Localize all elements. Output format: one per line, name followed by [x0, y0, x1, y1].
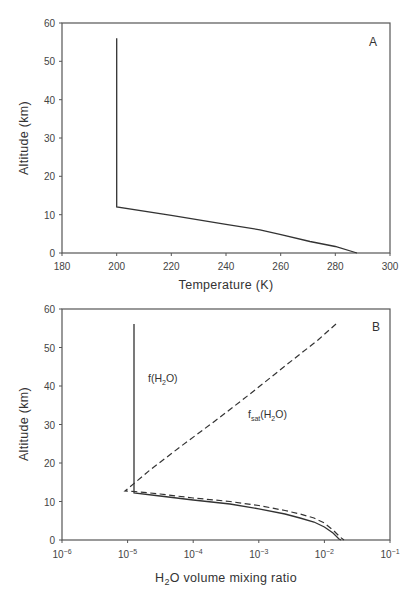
x-tick-label: 10−1 — [380, 548, 399, 560]
y-tick-label: 30 — [44, 133, 56, 144]
x-tick-label: 240 — [218, 261, 235, 272]
y-tick-label: 60 — [44, 18, 56, 29]
x-tick-label: 10−6 — [52, 548, 71, 560]
y-tick-label: 0 — [49, 535, 55, 546]
x-tick-label: 10−5 — [118, 548, 137, 560]
x-tick-label: 10−4 — [184, 548, 203, 560]
y-tick-label: 40 — [44, 381, 56, 392]
panel-label-a: A — [369, 35, 377, 49]
y-tick-label: 10 — [44, 210, 56, 221]
f-h2o-line — [134, 324, 341, 540]
x-tick-label: 10−2 — [315, 548, 334, 560]
x-tick-label: 280 — [327, 261, 344, 272]
plot-frame-a — [62, 23, 390, 253]
fsat-h2o-line — [125, 324, 344, 540]
x-tick-label: 260 — [272, 261, 289, 272]
y-axis-title-a: Altitude (km) — [17, 101, 31, 175]
y-tick-label: 60 — [44, 304, 56, 315]
x-tick-label: 220 — [163, 261, 180, 272]
y-tick-label: 50 — [44, 343, 56, 354]
y-tick-label: 20 — [44, 458, 56, 469]
x-tick-label: 180 — [54, 261, 71, 272]
y-tick-label: 10 — [44, 497, 56, 508]
plot-frame-b — [62, 309, 390, 540]
y-tick-label: 0 — [49, 248, 55, 259]
x-tick-label: 300 — [382, 261, 399, 272]
panel-b: 0 10 20 30 40 50 60 10−6 10−5 10−4 10−3 … — [17, 304, 400, 587]
f-h2o-annotation: f(H2O) — [148, 372, 178, 386]
panel-label-b: B — [372, 320, 380, 334]
y-tick-label: 50 — [44, 56, 56, 67]
y-tick-label: 40 — [44, 95, 56, 106]
y-tick-label: 30 — [44, 420, 56, 431]
x-tick-label: 10−3 — [249, 548, 268, 560]
temperature-profile-line — [117, 38, 357, 253]
fsat-h2o-annotation: fsat(H2O) — [248, 408, 287, 422]
panel-a: 0 10 20 30 40 50 60 180 200 220 240 260 … — [17, 18, 399, 292]
figure: 0 10 20 30 40 50 60 180 200 220 240 260 … — [0, 0, 414, 601]
y-tick-label: 20 — [44, 171, 56, 182]
x-axis-title-b: H2O volume mixing ratio — [155, 571, 297, 587]
x-tick-label: 200 — [108, 261, 125, 272]
y-axis-title-b: Altitude (km) — [17, 387, 31, 461]
x-axis-title-a: Temperature (K) — [179, 278, 274, 292]
